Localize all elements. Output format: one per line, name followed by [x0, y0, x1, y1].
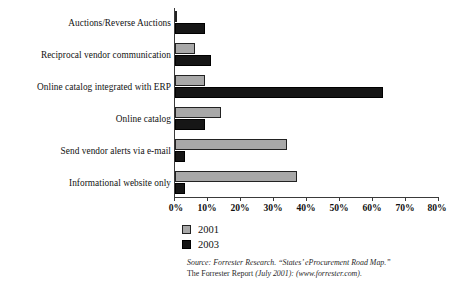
category-label: Send vendor alerts via e-mail	[61, 146, 171, 156]
legend-swatch-icon	[182, 225, 191, 234]
bar-2001	[175, 107, 221, 118]
plot-area: Auctions/Reverse Auctions Reciprocal ven…	[0, 8, 458, 198]
legend-item-2003: 2003	[182, 237, 219, 252]
x-axis-tick-label: 20%	[230, 202, 249, 213]
x-axis-tick-label: 30%	[263, 202, 282, 213]
bar-2001	[175, 171, 297, 182]
category-label: Auctions/Reverse Auctions	[68, 18, 171, 28]
x-axis-tick	[438, 197, 439, 201]
chart-category-row: Reciprocal vendor communication	[0, 40, 458, 70]
source-line-1: Source: Forrester Research. “States’ ePr…	[187, 258, 455, 269]
x-axis-tick-label: 60%	[362, 202, 381, 213]
bar-2001	[175, 139, 287, 150]
chart-category-row: Auctions/Reverse Auctions	[0, 8, 458, 38]
chart-category-row: Informational website only	[0, 168, 458, 198]
category-label: Online catalog integrated with ERP	[37, 82, 171, 92]
category-label: Informational website only	[69, 178, 171, 188]
bar-2001	[175, 43, 195, 54]
bar-chart: Auctions/Reverse Auctions Reciprocal ven…	[0, 0, 458, 288]
bar-2003	[175, 183, 185, 194]
bar-2003	[175, 119, 205, 130]
category-label: Online catalog	[116, 114, 171, 124]
bar-group	[175, 136, 455, 166]
chart-category-row: Online catalog integrated with ERP	[0, 72, 458, 102]
x-axis-tick-label: 40%	[296, 202, 315, 213]
chart-category-row: Online catalog	[0, 104, 458, 134]
bar-group	[175, 40, 455, 70]
legend-label: 2003	[198, 239, 219, 250]
x-axis-tick	[405, 197, 406, 201]
bar-group	[175, 104, 455, 134]
x-axis-tick	[306, 197, 307, 201]
bar-group	[175, 168, 455, 198]
bar-2003	[175, 23, 205, 34]
x-axis-tick	[240, 197, 241, 201]
source-line-2-italic: (July 2001): (www.forrester.com).	[255, 269, 362, 278]
bar-2003	[175, 55, 211, 66]
bar-2003	[175, 87, 383, 98]
x-axis-tick	[273, 197, 274, 201]
bar-group	[175, 72, 455, 102]
x-axis-tick-label: 50%	[329, 202, 348, 213]
x-axis-tick	[174, 197, 175, 201]
category-label: Reciprocal vendor communication	[41, 50, 171, 60]
y-axis-line	[174, 8, 175, 198]
legend-label: 2001	[198, 224, 219, 235]
chart-legend: 2001 2003	[182, 222, 219, 252]
bar-2003	[175, 151, 185, 162]
bar-group	[175, 8, 455, 38]
bar-2001	[175, 11, 177, 22]
x-axis-tick-label: 10%	[197, 202, 216, 213]
bar-2001	[175, 75, 205, 86]
chart-category-row: Send vendor alerts via e-mail	[0, 136, 458, 166]
x-axis-tick	[339, 197, 340, 201]
source-line-2-prefix: The Forrester Report	[187, 269, 255, 278]
source-line-2: The Forrester Report (July 2001): (www.f…	[187, 269, 455, 280]
x-axis-tick-label: 0%	[169, 202, 183, 213]
x-axis-tick-label: 70%	[395, 202, 414, 213]
x-axis-tick	[207, 197, 208, 201]
source-note: Source: Forrester Research. “States’ ePr…	[187, 258, 455, 279]
legend-swatch-icon	[182, 240, 191, 249]
x-axis-tick-label: 80%	[427, 202, 446, 213]
x-axis-tick	[372, 197, 373, 201]
legend-item-2001: 2001	[182, 222, 219, 237]
